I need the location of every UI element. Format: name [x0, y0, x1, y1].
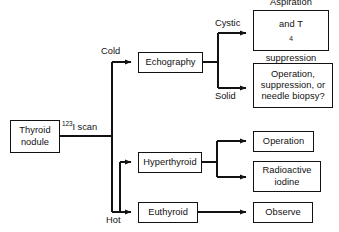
t4-subscript: 4 — [264, 33, 319, 44]
edge-label-hot: Hot — [106, 215, 120, 225]
node-operation: Operation — [253, 131, 314, 152]
node-thyroid-nodule: Thyroid nodule — [10, 120, 60, 153]
thyroid-nodule-flowchart: Thyroid nodule 123I scan Cold Hot Echogr… — [0, 0, 339, 232]
edge-label-cystic: Cystic — [215, 18, 240, 28]
edge-label-i123-scan: 123I scan — [62, 122, 97, 133]
edge-label-solid: Solid — [215, 91, 236, 101]
node-euthyroid: Euthyroid — [138, 202, 198, 223]
node-echography: Echography — [138, 52, 203, 73]
node-aspiration-t4-suppression: Aspirationand T4suppression — [253, 10, 329, 51]
node-radioactive-iodine: Radioactive iodine — [253, 161, 321, 192]
edge-label-cold: Cold — [101, 46, 120, 56]
node-operation-suppression-biopsy: Operation, suppression, or needle biopsy… — [253, 63, 333, 108]
node-hyperthyroid: Hyperthyroid — [138, 152, 202, 173]
node-observe: Observe — [253, 202, 313, 223]
